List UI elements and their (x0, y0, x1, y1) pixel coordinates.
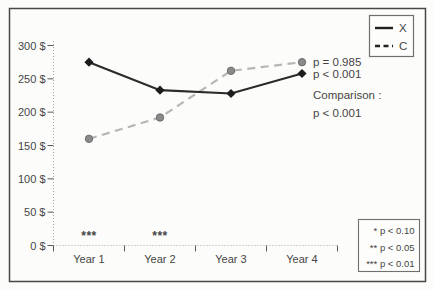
y-axis-tick-label: 0 $ (30, 240, 45, 252)
series-X-marker (84, 58, 93, 67)
series-X-line (89, 62, 302, 93)
chart-svg: 300 $250 $200 $150 $100 $50 $0 $Year 1Ye… (0, 0, 433, 290)
series-X-endpoint-p-label: p < 0.001 (313, 68, 361, 80)
footnote-line: ** p < 0.05 (370, 242, 415, 253)
y-axis-tick-label: 300 $ (18, 40, 46, 52)
series-X-marker (297, 69, 306, 78)
series-C-marker (85, 135, 92, 142)
y-axis-tick-label: 100 $ (18, 173, 46, 185)
series-X-marker (155, 86, 164, 95)
series-C-endpoint-p-label: p = 0.985 (313, 56, 361, 68)
y-axis-tick-label: 50 $ (24, 206, 45, 218)
y-axis-tick-label: 150 $ (18, 140, 46, 152)
series-C-marker (227, 67, 234, 74)
statistical-line-chart-figure: 300 $250 $200 $150 $100 $50 $0 $Year 1Ye… (0, 0, 433, 290)
comparison-title-label: Comparison : (313, 89, 381, 101)
series-X-marker (226, 89, 235, 98)
x-axis-category-label: Year 3 (215, 253, 246, 265)
series-C-marker (156, 114, 163, 121)
x-axis-category-label: Year 4 (286, 253, 317, 265)
significance-stars: *** (152, 229, 168, 243)
footnote-line: *** p < 0.01 (366, 258, 414, 269)
x-axis-category-label: Year 1 (73, 253, 104, 265)
comparison-value-label: p < 0.001 (313, 107, 361, 119)
footnote-line: * p < 0.10 (374, 225, 415, 236)
legend-C-label: C (399, 40, 407, 52)
y-axis-tick-label: 200 $ (18, 106, 46, 118)
y-axis-tick-label: 250 $ (18, 73, 46, 85)
x-axis-category-label: Year 2 (144, 253, 175, 265)
series-C-marker (298, 58, 305, 65)
significance-stars: *** (81, 229, 97, 243)
legend-X-label: X (399, 22, 407, 34)
